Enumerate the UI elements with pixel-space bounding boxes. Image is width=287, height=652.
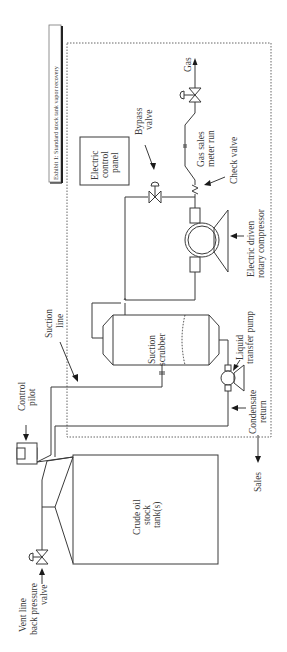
condensate-label-2: return bbox=[258, 400, 268, 423]
check-valve-icon bbox=[192, 185, 198, 194]
diagram-title: Exhibit 1: Standard stock tank vapor rec… bbox=[52, 65, 59, 180]
bypass-line bbox=[125, 182, 195, 299]
gas-arrow-icon bbox=[193, 58, 198, 65]
compressor-label-2: rotary compressor bbox=[256, 208, 266, 278]
scrubber-label-2: scrubber bbox=[157, 332, 167, 366]
control-pilot bbox=[17, 443, 37, 464]
control-pilot-label-1: Control bbox=[17, 382, 27, 411]
pump-label-2: transfer pump bbox=[245, 311, 255, 364]
vent-back-pressure-valve-icon bbox=[29, 550, 48, 564]
condensate-pointer-icon bbox=[231, 405, 238, 411]
suction-line bbox=[51, 387, 162, 440]
gas-sales-meter-run-label-2: meter run bbox=[206, 130, 216, 167]
sales-arrow-icon bbox=[255, 456, 261, 463]
bypass-pointer-icon bbox=[150, 163, 156, 170]
suction-line-label-1: Suction bbox=[44, 309, 54, 338]
control-pilot-label-2: pilot bbox=[27, 388, 37, 406]
bypass-valve-label-2: valve bbox=[144, 109, 154, 130]
liquid-transfer-pump bbox=[221, 365, 244, 391]
control-panel-label-3: panel bbox=[110, 152, 120, 173]
control-panel-label-2: control bbox=[100, 151, 110, 178]
condensate-label-1: Condensate bbox=[248, 390, 258, 434]
vent-valve-label-1: Vent line bbox=[18, 598, 28, 632]
suction-line-pointer-icon bbox=[72, 374, 78, 382]
vent-pointer-icon bbox=[39, 568, 45, 575]
tank-label-1: Crude oil bbox=[132, 499, 142, 535]
sales-label: Sales bbox=[253, 472, 263, 492]
tank-label-3: tank(s) bbox=[152, 502, 163, 528]
check-valve-pointer-icon bbox=[204, 180, 211, 186]
condensate-return-line bbox=[55, 426, 228, 457]
vapor-recovery-diagram: Exhibit 1: Standard stock tank vapor rec… bbox=[0, 0, 287, 652]
control-pilot-pointer-icon bbox=[23, 434, 29, 441]
vent-valve-label-3: valve bbox=[39, 584, 49, 605]
bypass-valve-label-1: Bypass bbox=[134, 107, 144, 135]
title-box: Exhibit 1: Standard stock tank vapor rec… bbox=[49, 25, 62, 183]
control-panel-label-1: Electric bbox=[90, 150, 100, 180]
gas-label: Gas bbox=[183, 57, 193, 72]
gas-sales-meter-run-label-1: Gas sales bbox=[196, 131, 206, 167]
scrubber-label-1: Suction bbox=[147, 335, 157, 364]
rotary-compressor bbox=[185, 208, 228, 300]
compressor-pointer-icon bbox=[230, 233, 237, 239]
tank-label-2: stock bbox=[142, 505, 152, 525]
compressor-label-1: Electric driven bbox=[246, 221, 256, 277]
skid-boundary bbox=[67, 43, 271, 437]
pump-label-1: Liquid bbox=[235, 334, 245, 360]
crude-oil-stock-tank bbox=[42, 455, 218, 564]
vent-valve-label-2: back pressure bbox=[29, 583, 39, 635]
gas-control-valve-icon bbox=[180, 88, 201, 102]
suction-line-label-2: line bbox=[55, 314, 65, 328]
check-valve-label: Check valve bbox=[229, 137, 239, 184]
bypass-valve-icon bbox=[149, 182, 161, 203]
